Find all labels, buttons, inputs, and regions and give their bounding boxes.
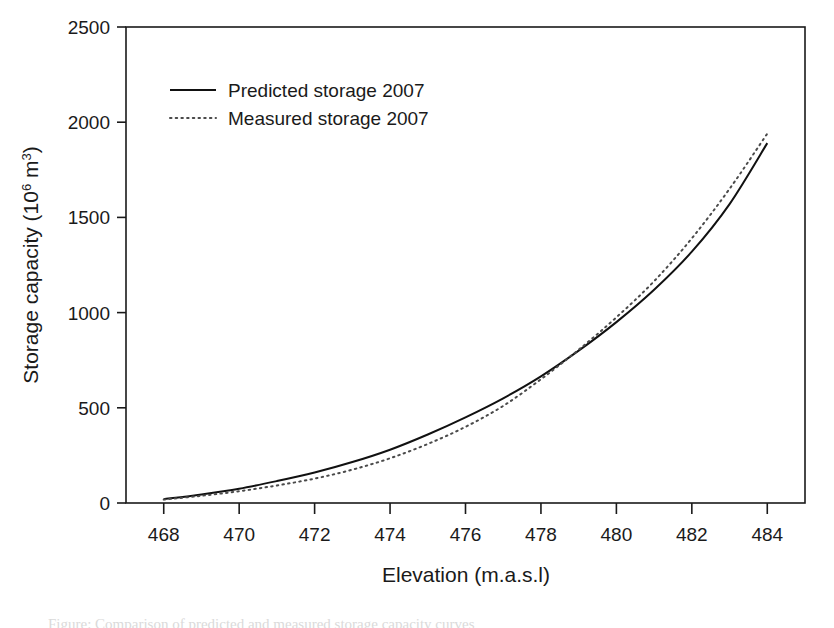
x-tick-label-480: 480 — [601, 524, 633, 545]
svg-text:Storage capacity (106 m3): Storage capacity (106 m3) — [19, 146, 43, 383]
y-axis-title-close: ) — [19, 146, 42, 153]
y-tick-label-2000: 2000 — [68, 112, 110, 133]
x-tick-label-468: 468 — [148, 524, 180, 545]
y-tick-label-0: 0 — [99, 493, 110, 514]
x-tick-label-470: 470 — [223, 524, 255, 545]
y-axis-title-exponent-3: 3 — [19, 153, 34, 160]
x-tick-label-478: 478 — [525, 524, 557, 545]
x-tick-label-474: 474 — [374, 524, 406, 545]
y-axis-title-main: Storage capacity (10 — [19, 191, 42, 384]
legend-label-predicted: Predicted storage 2007 — [228, 80, 424, 101]
x-axis-title: Elevation (m.a.s.l) — [382, 563, 550, 586]
x-tick-label-476: 476 — [450, 524, 482, 545]
y-tick-label-1500: 1500 — [68, 207, 110, 228]
y-axis-title: Storage capacity (106 m3) — [19, 146, 43, 383]
y-tick-label-500: 500 — [78, 398, 110, 419]
x-tick-label-484: 484 — [751, 524, 783, 545]
x-axis-tick-labels: 468470472474476478480482484 — [148, 524, 784, 545]
figure-caption-partial: Figure: Comparison of predicted and meas… — [48, 616, 788, 628]
storage-capacity-chart: 05001000150020002500 4684704724744764784… — [0, 0, 834, 628]
legend-label-measured: Measured storage 2007 — [228, 108, 429, 129]
y-axis-title-exponent-6: 6 — [19, 184, 34, 191]
x-tick-label-482: 482 — [676, 524, 708, 545]
figure-container: 05001000150020002500 4684704724744764784… — [0, 0, 834, 628]
y-tick-label-1000: 1000 — [68, 303, 110, 324]
x-tick-label-472: 472 — [299, 524, 331, 545]
y-tick-label-2500: 2500 — [68, 17, 110, 38]
y-axis-title-mid: m — [19, 161, 42, 184]
